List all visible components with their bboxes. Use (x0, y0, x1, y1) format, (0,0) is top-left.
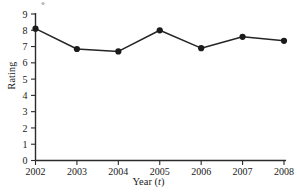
plot-area: 2002200320042005200620072008 0123456789 (0, 0, 297, 194)
data-point-marker (32, 26, 38, 32)
x-tick-label: 2004 (108, 166, 128, 177)
x-tick-label: 2005 (150, 166, 170, 177)
x-tick-label: 2006 (191, 166, 211, 177)
y-tick-label: 7 (23, 41, 28, 52)
x-tick-label: 2007 (233, 166, 253, 177)
data-point-marker (74, 46, 80, 52)
y-tick-label: 6 (23, 57, 28, 68)
scan-speck (41, 2, 44, 5)
y-tick-label: 0 (23, 155, 28, 166)
data-point-marker (281, 38, 287, 44)
x-tick-label: 2003 (67, 166, 87, 177)
rating-vs-year-line-chart: Rating Year (t) 200220032004200520062007… (0, 0, 297, 194)
data-point-marker (157, 27, 163, 33)
rating-series-markers (32, 26, 287, 55)
x-tick-label: 2002 (26, 166, 46, 177)
y-axis-tick-labels: 0123456789 (23, 9, 28, 167)
data-point-marker (239, 34, 245, 40)
y-tick-label: 5 (23, 74, 28, 85)
y-tick-label: 9 (23, 9, 28, 20)
x-axis-tick-labels: 2002200320042005200620072008 (26, 166, 295, 177)
x-tick-label: 2008 (274, 166, 294, 177)
y-tick-label: 8 (23, 25, 28, 36)
data-point-marker (198, 45, 204, 51)
y-tick-label: 4 (23, 90, 28, 101)
data-point-marker (115, 48, 121, 54)
y-tick-label: 3 (23, 106, 28, 117)
y-tick-label: 1 (23, 139, 28, 150)
y-tick-label: 2 (23, 123, 28, 134)
